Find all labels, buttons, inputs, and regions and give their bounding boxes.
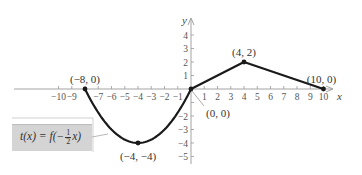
- data-point: [321, 87, 326, 92]
- x-tick-label: −5: [120, 92, 130, 102]
- x-tick-label: −10: [51, 92, 66, 102]
- linear-segment: [191, 62, 324, 89]
- x-tick-label: 7: [281, 92, 286, 102]
- data-point: [136, 141, 141, 146]
- x-tick-label: −4: [133, 92, 143, 102]
- point-label: (10, 0): [307, 73, 337, 86]
- y-tick-label: −5: [178, 152, 188, 162]
- x-tick-label: 2: [215, 92, 220, 102]
- function-leader-line: [92, 134, 108, 137]
- x-tick-label: −2: [159, 92, 169, 102]
- x-tick-label: 6: [268, 92, 273, 102]
- x-tick-label: 4: [242, 92, 247, 102]
- data-point: [83, 87, 88, 92]
- x-tick-label: 1: [202, 92, 207, 102]
- point-label: (0, 0): [206, 107, 230, 120]
- x-tick-label: 5: [255, 92, 260, 102]
- x-tick-label: −9: [67, 92, 77, 102]
- function-label: t(x) = f(−12x): [20, 129, 81, 146]
- y-tick-label: 2: [183, 58, 188, 68]
- x-tick-label: 10: [319, 92, 329, 102]
- x-tick-label: −3: [146, 92, 156, 102]
- y-tick-label: −4: [178, 139, 188, 149]
- data-point: [242, 60, 247, 65]
- x-tick-label: −6: [106, 92, 116, 102]
- fraction-denominator: 2: [65, 138, 71, 146]
- point-label: (4, 2): [232, 46, 256, 59]
- point-label: (−4, −4): [120, 150, 157, 163]
- x-tick-label: 9: [308, 92, 313, 102]
- y-tick-label: 4: [183, 31, 188, 41]
- y-tick-label: −2: [178, 112, 188, 122]
- y-tick-label: 1: [183, 71, 188, 81]
- y-axis-label: y: [181, 14, 187, 26]
- x-tick-label: −1: [173, 92, 183, 102]
- y-tick-label: −3: [178, 125, 188, 135]
- curve: [85, 62, 324, 143]
- function-label-lhs: t(x) = f(−: [20, 130, 64, 142]
- function-label-rhs: x): [72, 130, 81, 142]
- fraction: 12: [65, 129, 71, 146]
- data-point: [189, 87, 194, 92]
- x-tick-label: 8: [295, 92, 300, 102]
- x-tick-label: 3: [228, 92, 233, 102]
- point-label: (−8, 0): [70, 73, 100, 86]
- x-tick-label: −7: [93, 92, 103, 102]
- x-axis-label: x: [336, 90, 342, 102]
- y-tick-label: 3: [183, 44, 188, 54]
- points: [83, 60, 326, 146]
